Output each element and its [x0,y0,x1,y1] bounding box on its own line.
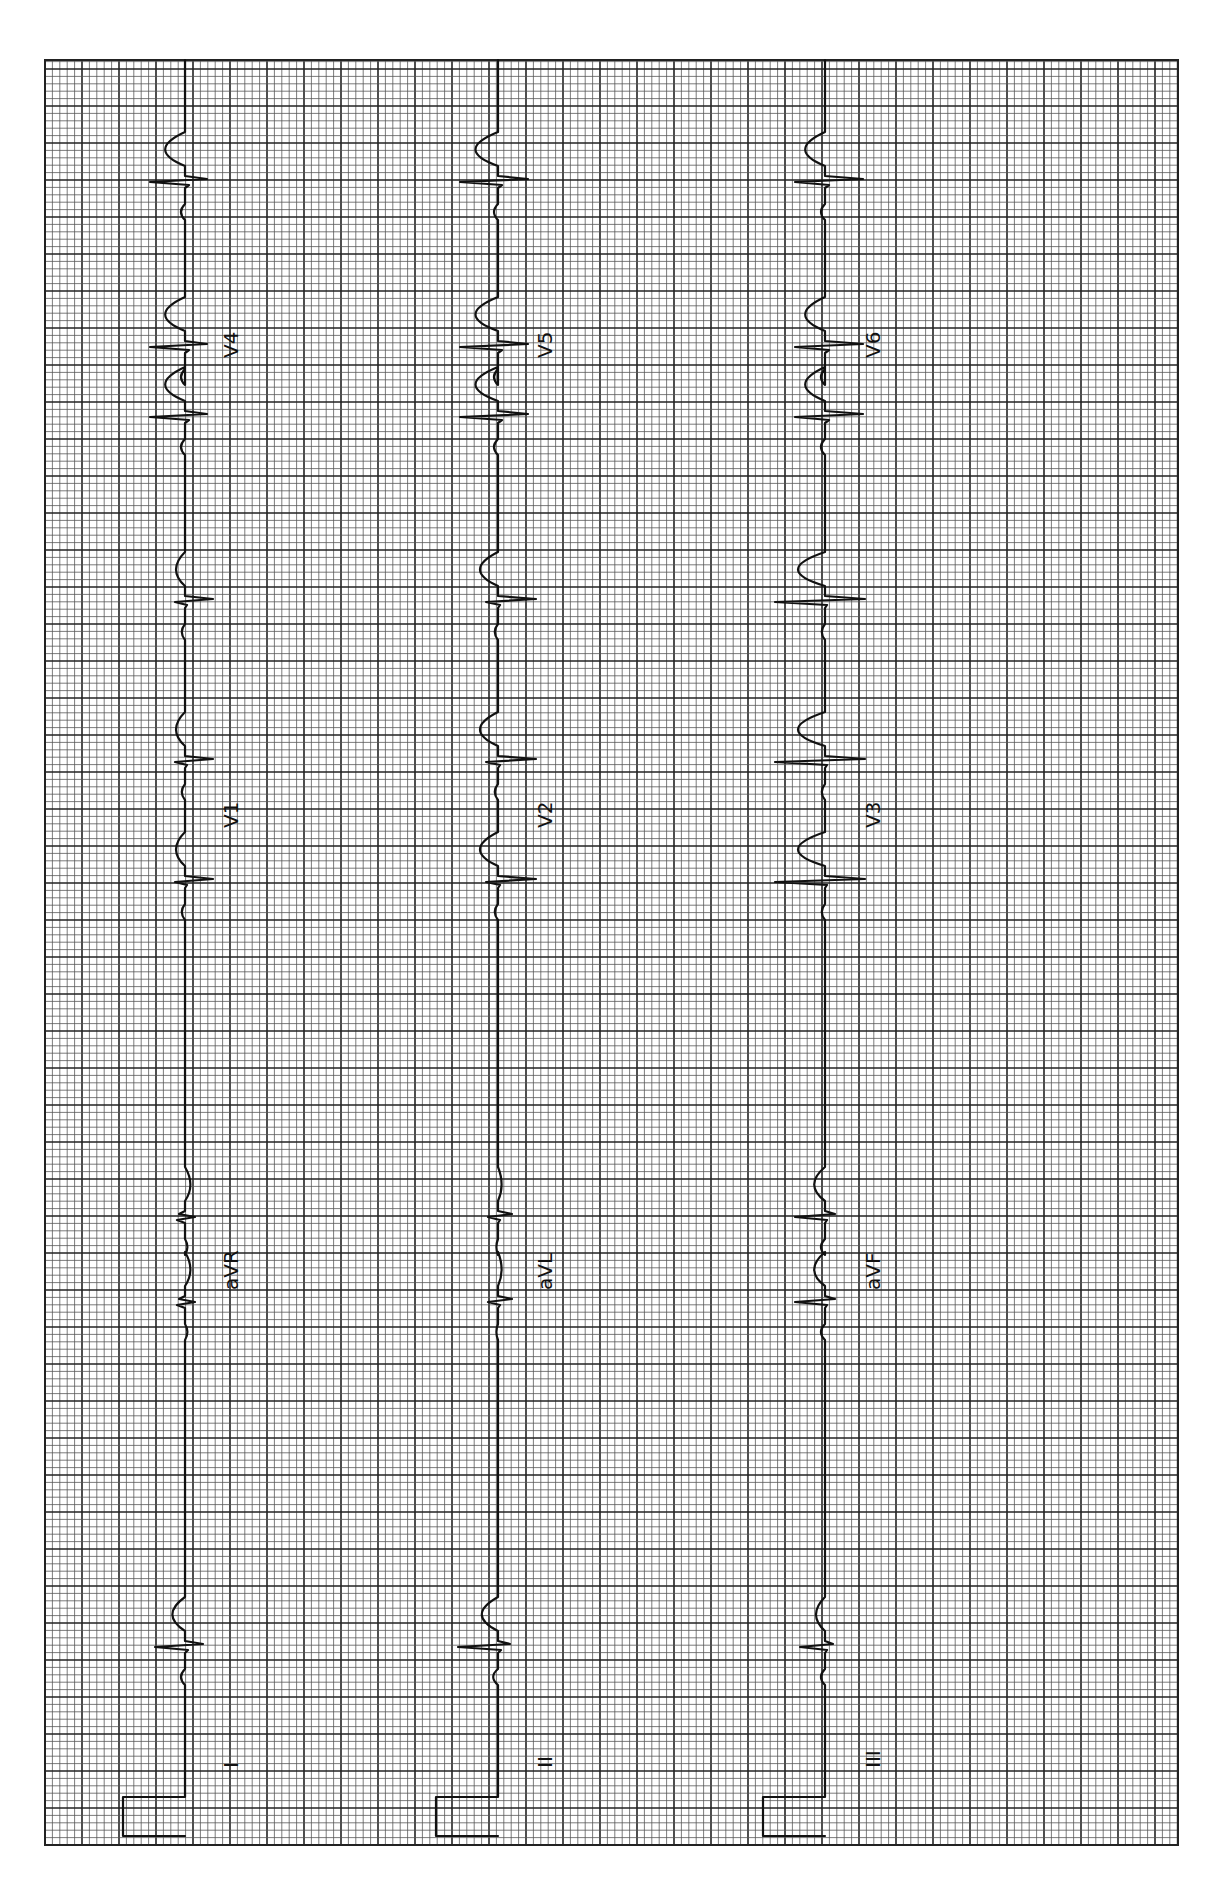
ecg-trace-strip-3 [763,60,865,1836]
lead-label-v6: V6 [861,332,885,358]
lead-label-avr: aVR [219,1250,243,1290]
ecg-traces [123,60,865,1836]
lead-label-ii: II [533,1756,557,1768]
lead-label-avl: aVL [533,1252,557,1290]
lead-label-v3: V3 [861,802,885,828]
ecg-grid [45,60,1178,1845]
lead-label-i: I [219,1762,243,1768]
lead-label-v5: V5 [533,332,557,358]
lead-label-v2: V2 [533,802,557,828]
ecg-sheet: I aVR V1 V4 II aVL V2 V5 III aVF V3 V6 [0,0,1229,1890]
ecg-trace-strip-1 [123,60,213,1836]
ecg-trace-strip-2 [436,60,536,1836]
lead-label-iii: III [861,1750,885,1768]
lead-label-v4: V4 [219,332,243,358]
lead-label-avf: aVF [861,1253,885,1290]
lead-label-v1: V1 [219,802,243,828]
